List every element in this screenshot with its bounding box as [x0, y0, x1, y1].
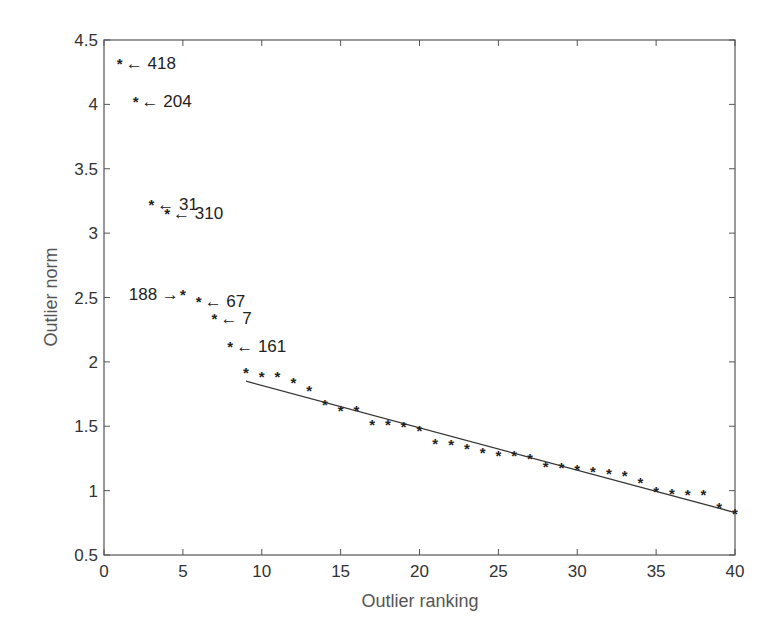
y-axis-label: Outlier norm — [41, 247, 61, 346]
data-point-marker: * — [196, 293, 202, 310]
y-tick-label: 1.5 — [74, 417, 98, 436]
data-point-marker: * — [716, 499, 722, 516]
y-axis-tick-labels: 0.511.522.533.544.5 — [74, 31, 98, 565]
data-point-marker: * — [669, 485, 675, 502]
data-points: **************************************** — [117, 55, 738, 521]
x-tick-label: 30 — [568, 562, 587, 581]
data-point-marker: * — [464, 440, 470, 457]
annotation-label: 188 → — [129, 285, 179, 304]
data-point-marker: * — [243, 364, 249, 381]
data-point-marker: * — [574, 461, 580, 478]
data-point-marker: * — [306, 382, 312, 399]
data-point-marker: * — [495, 447, 501, 464]
x-tick-label: 5 — [178, 562, 187, 581]
annotation-label: ← 7 — [220, 309, 251, 328]
x-axis-tick-labels: 0510152025303540 — [99, 562, 744, 581]
data-point-marker: * — [417, 422, 423, 439]
x-tick-label: 40 — [726, 562, 745, 581]
x-tick-label: 10 — [252, 562, 271, 581]
data-point-marker: * — [480, 444, 486, 461]
data-point-marker: * — [701, 486, 707, 503]
y-tick-label: 3.5 — [74, 160, 98, 179]
annotation-label: ← 161 — [236, 337, 286, 356]
data-point-marker: * — [259, 368, 265, 385]
data-point-marker: * — [290, 374, 296, 391]
linear-fit-line — [246, 381, 735, 512]
annotation-label: ← 310 — [173, 204, 223, 223]
data-point-marker: * — [653, 483, 659, 500]
data-point-marker: * — [432, 435, 438, 452]
data-point-marker: * — [559, 459, 565, 476]
data-point-marker: * — [448, 436, 454, 453]
data-point-marker: * — [369, 416, 375, 433]
x-tick-label: 0 — [99, 562, 108, 581]
y-tick-label: 2.5 — [74, 289, 98, 308]
annotation-label: ← 418 — [126, 54, 176, 73]
data-point-marker: * — [227, 338, 233, 355]
x-tick-label: 25 — [489, 562, 508, 581]
data-point-marker: * — [148, 196, 154, 213]
y-tick-label: 2 — [89, 353, 98, 372]
data-point-marker: * — [117, 55, 123, 72]
outlier-norm-chart: 0510152025303540 0.511.522.533.544.5 ***… — [0, 0, 782, 636]
x-axis-label: Outlier ranking — [361, 591, 478, 611]
y-tick-label: 1 — [89, 482, 98, 501]
data-point-marker: * — [511, 447, 517, 464]
y-tick-label: 4 — [89, 95, 98, 114]
data-point-marker: * — [338, 402, 344, 419]
data-point-marker: * — [275, 368, 281, 385]
data-point-marker: * — [590, 463, 596, 480]
x-tick-label: 15 — [331, 562, 350, 581]
y-tick-label: 0.5 — [74, 546, 98, 565]
data-point-marker: * — [527, 450, 533, 467]
data-point-marker: * — [180, 286, 186, 303]
data-point-marker: * — [353, 402, 359, 419]
data-point-marker: * — [385, 416, 391, 433]
data-point-marker: * — [622, 467, 628, 484]
y-tick-label: 4.5 — [74, 31, 98, 50]
y-tick-label: 3 — [89, 224, 98, 243]
data-point-marker: * — [401, 418, 407, 435]
data-point-marker: * — [606, 465, 612, 482]
x-tick-label: 35 — [647, 562, 666, 581]
x-tick-label: 20 — [410, 562, 429, 581]
data-point-marker: * — [133, 93, 139, 110]
data-point-marker: * — [685, 486, 691, 503]
data-point-marker: * — [732, 505, 738, 522]
data-point-marker: * — [212, 310, 218, 327]
annotation-label: ← 204 — [142, 92, 192, 111]
data-point-marker: * — [637, 474, 643, 491]
data-point-marker: * — [543, 458, 549, 475]
data-point-marker: * — [322, 396, 328, 413]
